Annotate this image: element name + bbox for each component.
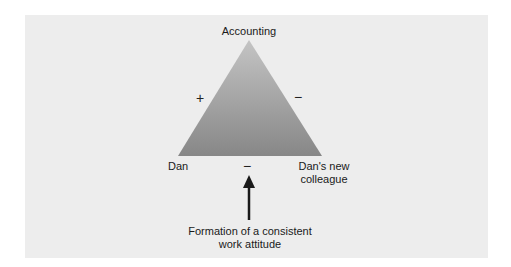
node-colleague-line1: Dan's new [294,160,354,173]
base-edge-sign: − [243,159,251,173]
arrow-head [243,175,255,188]
node-accounting: Accounting [212,25,286,38]
left-edge-sign: + [196,91,204,105]
node-colleague-line2: colleague [294,173,354,186]
right-edge-sign: − [294,90,302,104]
caption-line1: Formation of a consistent [180,225,320,238]
caption-line2: work attitude [180,238,320,251]
node-dan: Dan [168,160,198,173]
